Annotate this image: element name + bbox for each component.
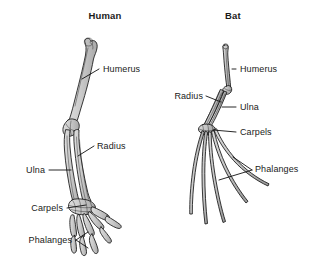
comparative-anatomy-figure: Human [0,0,316,272]
label-human-humerus: Humerus [103,64,141,74]
label-bat-radius: Radius [174,91,203,101]
label-human-phalanges: Phalanges [29,235,73,245]
label-bat-carpels: Carpels [240,127,272,137]
label-human-carpels: Carpels [31,203,63,213]
label-human-radius: Radius [97,141,126,151]
bat-panel-title: Bat [225,10,242,21]
label-bat-humerus: Humerus [240,64,278,74]
label-bat-ulna: Ulna [240,102,259,112]
label-bat-phalanges: Phalanges [255,164,299,174]
label-human-ulna: Ulna [26,165,45,175]
human-panel-title: Human [88,10,121,21]
